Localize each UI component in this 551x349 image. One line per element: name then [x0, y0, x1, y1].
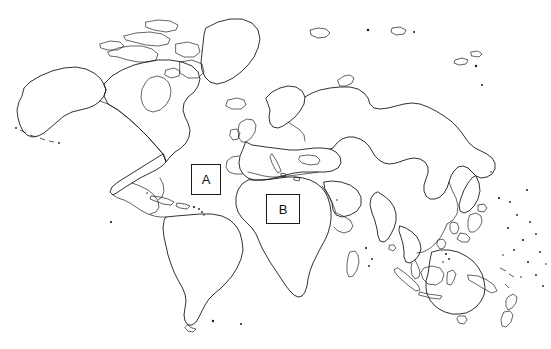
- arabian-peninsula: [324, 181, 361, 217]
- landmass-australia: [426, 250, 485, 314]
- new-zealand: [506, 294, 517, 310]
- solomon-islands: [500, 268, 514, 277]
- baltic-sea: [288, 122, 305, 141]
- new-siberian-islands: [454, 58, 468, 65]
- sumatra: [394, 268, 420, 291]
- wrangel-island: [471, 51, 482, 57]
- italy: [270, 154, 281, 173]
- arctic-island-group-2: [124, 32, 170, 46]
- black-sea: [299, 155, 320, 165]
- southeast-asia: [399, 226, 421, 263]
- landmass-alaska: [17, 67, 106, 137]
- horn-of-africa: [334, 213, 353, 233]
- vanuatu: [505, 284, 509, 288]
- kamchatka-peninsula: [459, 176, 480, 213]
- map-marker-b-label: B: [279, 203, 288, 216]
- iceland: [226, 98, 246, 109]
- malay-peninsula: [411, 260, 420, 279]
- hokkaido: [478, 204, 487, 212]
- baffin-island: [176, 42, 200, 57]
- hispaniola: [176, 203, 190, 209]
- sri-lanka: [389, 245, 396, 251]
- alaska-panhandle: [100, 101, 163, 154]
- tasmania: [457, 316, 467, 324]
- world-map-svg: [0, 0, 551, 349]
- cuba: [150, 196, 174, 205]
- novaya-zemlya: [338, 75, 354, 86]
- gulf-of-mexico: [132, 183, 159, 214]
- landmass-india: [370, 192, 396, 242]
- landmass-usa-mexico: [110, 154, 166, 195]
- hudson-bay: [141, 76, 171, 112]
- japan-south: [457, 233, 470, 242]
- central-america: [113, 195, 166, 217]
- madagascar: [347, 251, 359, 277]
- red-sea: [322, 186, 336, 213]
- landmass-greenland: [201, 19, 260, 84]
- british-isles: [238, 119, 256, 142]
- map-marker-b[interactable]: B: [266, 194, 300, 224]
- map-marker-a-label: A: [202, 173, 211, 186]
- sulawesi: [447, 270, 456, 285]
- world-map: A B: [0, 0, 551, 349]
- borneo: [421, 266, 444, 285]
- landmass-europe: [239, 142, 341, 180]
- new-guinea: [468, 275, 497, 293]
- sea-of-okhotsk: [447, 182, 458, 224]
- japan: [468, 213, 482, 232]
- java: [419, 292, 442, 299]
- banks-island: [100, 41, 124, 50]
- arctic-island-group-3: [146, 20, 178, 32]
- korea: [450, 222, 459, 234]
- victoria-island: [165, 68, 180, 78]
- landmass-siberia: [305, 87, 495, 199]
- svalbard: [310, 28, 330, 38]
- patagonia-tip: [185, 325, 196, 332]
- landmass-canada: [104, 60, 200, 162]
- canadian-arctic-islands: [108, 46, 158, 62]
- landmass-south-america: [163, 214, 243, 325]
- new-zealand-south: [501, 311, 513, 327]
- map-marker-a[interactable]: A: [191, 164, 221, 195]
- landmass-scandinavia: [266, 86, 305, 128]
- severnaya-zemlya: [391, 27, 406, 35]
